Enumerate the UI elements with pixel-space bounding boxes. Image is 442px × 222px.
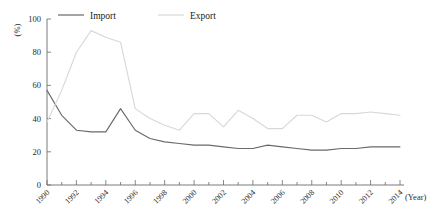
x-tick-label: 2014 bbox=[387, 188, 405, 206]
x-tick-label: 2000 bbox=[181, 188, 199, 206]
y-tick-label: 40 bbox=[33, 114, 42, 124]
series-line-export bbox=[47, 31, 400, 131]
x-tick-label: 1990 bbox=[34, 188, 52, 206]
y-tick-label: 20 bbox=[33, 147, 42, 157]
x-tick-label: 2012 bbox=[357, 188, 375, 206]
y-axis-ticks: 020406080100 bbox=[28, 14, 51, 190]
y-tick-label: 0 bbox=[37, 180, 41, 190]
legend-label-export: Export bbox=[190, 11, 216, 21]
line-chart: ImportExport 020406080100 (%) 1990199219… bbox=[0, 0, 442, 222]
y-tick-label: 60 bbox=[33, 80, 42, 90]
x-tick-label: 2010 bbox=[328, 188, 346, 206]
chart-legend: ImportExport bbox=[58, 11, 216, 21]
x-tick-label: 2004 bbox=[240, 188, 258, 206]
x-tick-label: 2006 bbox=[269, 188, 287, 206]
x-tick-label: 2002 bbox=[210, 188, 228, 206]
chart-series bbox=[47, 31, 400, 151]
x-axis-unit-label: (Year) bbox=[405, 192, 426, 202]
series-line-import bbox=[47, 90, 400, 150]
legend-label-import: Import bbox=[90, 11, 116, 21]
x-tick-label: 2008 bbox=[298, 188, 316, 206]
x-tick-label: 1994 bbox=[93, 188, 111, 206]
y-tick-label: 80 bbox=[33, 47, 42, 57]
x-axis-ticks: 1990199219941996199820002002200420062008… bbox=[34, 180, 405, 206]
chart-canvas: ImportExport 020406080100 (%) 1990199219… bbox=[0, 0, 442, 222]
y-tick-label: 100 bbox=[28, 14, 41, 24]
x-tick-label: 1992 bbox=[63, 188, 81, 206]
x-tick-label: 1998 bbox=[151, 188, 169, 206]
y-axis-unit-label: (%) bbox=[12, 23, 22, 36]
x-tick-label: 1996 bbox=[122, 188, 140, 206]
